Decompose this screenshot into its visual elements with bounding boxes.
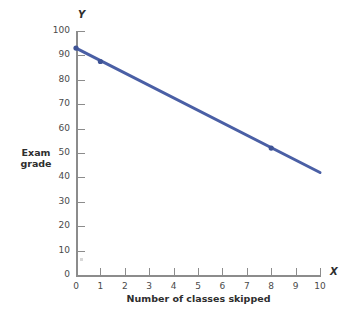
data-point-marker — [269, 146, 274, 151]
data-point-marker — [73, 45, 78, 50]
data-line — [76, 48, 320, 172]
plot-area — [0, 0, 350, 323]
data-point-marker — [98, 59, 103, 64]
chart-figure: Y X Exam grade Number of classes skipped… — [0, 0, 350, 323]
